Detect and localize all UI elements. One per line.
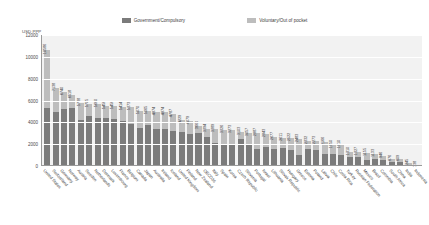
- x-label-column: Canada: [135, 168, 143, 224]
- gridline: [42, 79, 422, 80]
- bar-segment-government[interactable]: [238, 139, 244, 166]
- bar-segment-government[interactable]: [95, 118, 101, 166]
- bar-value-label: 10586: [42, 44, 47, 54]
- bar-segment-government[interactable]: [204, 137, 210, 166]
- bar-value-label: 609: [395, 155, 400, 161]
- bar-segment-government[interactable]: [145, 125, 151, 166]
- bar-stack[interactable]: 6740: [61, 92, 67, 166]
- bar-segment-government[interactable]: [103, 118, 109, 166]
- bar-stack[interactable]: 4974: [162, 112, 168, 166]
- bar-segment-government[interactable]: [288, 150, 294, 166]
- x-label-column: Ireland: [160, 168, 168, 224]
- x-label-column: New Zealand: [194, 168, 202, 224]
- bar-segment-government[interactable]: [78, 120, 84, 166]
- bar-segment-government[interactable]: [263, 147, 269, 166]
- x-label-column: Mexico: [362, 168, 370, 224]
- x-label-column: Latvia: [320, 168, 328, 224]
- x-label-column: Spain: [219, 168, 227, 224]
- bar-segment-government[interactable]: [305, 149, 311, 166]
- bar-value-label: 946: [378, 152, 383, 158]
- bar-stack[interactable]: 3389: [212, 129, 218, 166]
- bar-segment-government[interactable]: [44, 108, 50, 166]
- bar-stack[interactable]: 1910: [338, 145, 344, 166]
- bar-stack[interactable]: 5070: [137, 111, 143, 166]
- bar-stack[interactable]: 2943: [263, 134, 269, 166]
- x-label-column: Iceland: [168, 168, 176, 224]
- bar-segment-government[interactable]: [162, 129, 168, 166]
- bar-segment-government[interactable]: [254, 149, 260, 166]
- bar-stack[interactable]: 5373: [128, 107, 134, 166]
- legend-swatch-government: [122, 18, 131, 23]
- bar-stack[interactable]: 2677: [271, 137, 277, 166]
- bar-segment-government[interactable]: [212, 143, 218, 166]
- x-label-column: Lithuania: [269, 168, 277, 224]
- bar-value-label: 4974: [160, 107, 165, 115]
- x-axis-baseline: [42, 165, 422, 166]
- bar-segment-government[interactable]: [229, 144, 235, 166]
- bar-stack[interactable]: 3326: [221, 130, 227, 166]
- bar-stack[interactable]: 2522: [288, 138, 294, 166]
- x-label-column: Chile: [328, 168, 336, 224]
- legend-label-government: Government/Compulsory: [134, 18, 185, 23]
- x-label-column: Israel: [261, 168, 269, 224]
- bar-stack[interactable]: 10586: [44, 50, 50, 166]
- bar-stack[interactable]: 5660: [95, 104, 101, 166]
- bar-stack[interactable]: 2166: [322, 142, 328, 166]
- bar-value-label: 5065: [143, 106, 148, 114]
- bar-value-label: 2611: [278, 133, 283, 141]
- bar-segment-government[interactable]: [271, 149, 277, 166]
- bar-segment-government[interactable]: [246, 144, 252, 166]
- bar-stack[interactable]: 5414: [120, 107, 126, 166]
- bar-value-label: 2943: [261, 129, 266, 137]
- x-label-column: China: [396, 168, 404, 224]
- bar-stack[interactable]: 5705: [86, 104, 92, 166]
- x-label-column: Norway: [67, 168, 75, 224]
- bar-stack[interactable]: 2483: [296, 139, 302, 166]
- y-axis-tick: 12000: [25, 33, 38, 38]
- bar-segment-government[interactable]: [221, 145, 227, 166]
- bar-stack[interactable]: 6518: [69, 95, 75, 166]
- bar-stack[interactable]: 5065: [145, 111, 151, 166]
- bar-stack[interactable]: 3394: [204, 129, 210, 166]
- bar-segment-government[interactable]: [280, 148, 286, 166]
- bar-stack[interactable]: 5456: [111, 106, 117, 166]
- bar-stack[interactable]: 3103: [238, 132, 244, 166]
- bar-segment-government[interactable]: [137, 128, 143, 166]
- bar-value-label: 4787: [168, 109, 173, 117]
- x-axis-labels: United StatesSwitzerlandGermanyNorwayAus…: [41, 168, 422, 224]
- chart-legend: Government/Compulsory Voluntary/Out of p…: [0, 14, 429, 26]
- bar-segment-government[interactable]: [153, 129, 159, 166]
- bar-stack[interactable]: 3273: [229, 130, 235, 166]
- bar-value-label: 1133: [370, 149, 375, 157]
- x-label-column: Poland: [312, 168, 320, 224]
- x-label-column: Belgium: [126, 168, 134, 224]
- bar-segment-government[interactable]: [111, 119, 117, 166]
- bar-segment-government[interactable]: [313, 150, 319, 166]
- bar-stack[interactable]: 1327: [355, 152, 361, 166]
- gridline: [42, 35, 422, 36]
- bar-stack[interactable]: 1310: [347, 152, 353, 166]
- bar-stack[interactable]: 5456: [103, 106, 109, 166]
- gridline: [42, 101, 422, 102]
- bar-stack[interactable]: 3057: [246, 133, 252, 166]
- bar-stack[interactable]: 4974: [153, 112, 159, 166]
- bar-stack[interactable]: 2987: [254, 133, 260, 166]
- bar-stack[interactable]: 5738: [78, 103, 84, 166]
- bar-segment-government[interactable]: [61, 109, 67, 166]
- bar-stack[interactable]: 4229: [179, 120, 185, 166]
- bar-value-label: 2677: [269, 132, 274, 140]
- bar-value-label: 2332: [303, 135, 308, 143]
- bar-value-label: 2522: [286, 133, 291, 141]
- x-label-column: OECD36: [202, 168, 210, 224]
- bar-stack[interactable]: 3660: [195, 126, 201, 166]
- bar-segment-government[interactable]: [195, 133, 201, 166]
- bar-segment-government[interactable]: [53, 112, 59, 166]
- bar-segment-government[interactable]: [179, 132, 185, 166]
- bar-segment-government[interactable]: [69, 108, 75, 166]
- bar-segment-government[interactable]: [170, 131, 176, 166]
- bar-value-label: 5456: [101, 101, 106, 109]
- x-label-column: Slovak Republic: [278, 168, 286, 224]
- bar-segment-government[interactable]: [187, 134, 193, 166]
- bar-value-label: 3326: [219, 125, 224, 133]
- bar-stack[interactable]: 2611: [280, 138, 286, 166]
